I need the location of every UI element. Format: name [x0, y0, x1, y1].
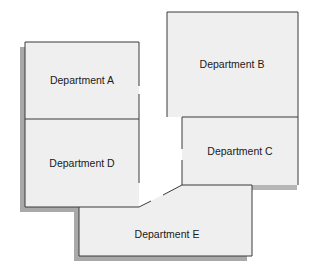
floor-plan-diagram: Department A Department B Department C D…	[0, 0, 314, 276]
department-e-label: Department E	[135, 228, 200, 240]
room-fills	[25, 12, 298, 256]
department-d-label: Department D	[49, 157, 115, 169]
department-c-label: Department C	[207, 145, 273, 157]
department-a-label: Department A	[50, 74, 114, 86]
department-b-label: Department B	[200, 58, 265, 70]
